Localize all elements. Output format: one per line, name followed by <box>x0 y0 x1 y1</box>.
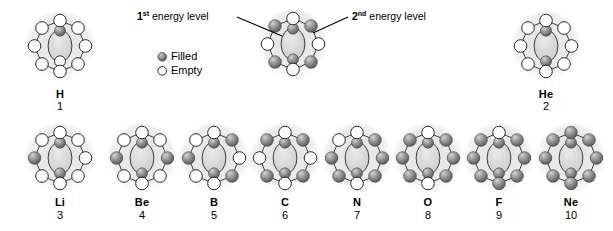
example-atom-carbon <box>255 6 331 82</box>
first-energy-level-callout: 1st energy level <box>137 10 209 22</box>
atom-fluorine-number: 9 <box>461 209 537 221</box>
atom-lithium <box>22 120 98 196</box>
atom-lithium-symbol: Li <box>22 196 98 208</box>
atom-carbon <box>247 120 323 196</box>
legend-label-filled: Filled <box>171 50 197 63</box>
atom-beryllium <box>104 120 180 196</box>
second-energy-level-callout: 2nd energy level <box>352 10 426 22</box>
atom-fluorine-symbol: F <box>461 196 537 208</box>
atom-neon-symbol: Ne <box>533 196 609 208</box>
callout-1-text: energy level <box>149 10 209 22</box>
filled-electron-icon <box>156 50 169 63</box>
atom-nitrogen <box>319 120 395 196</box>
atom-oxygen <box>390 120 466 196</box>
legend-item-filled: Filled <box>156 50 197 63</box>
atom-boron-symbol: B <box>176 196 252 208</box>
atom-neon-number: 10 <box>533 209 609 221</box>
atom-oxygen-number: 8 <box>390 209 466 221</box>
legend-item-empty: Empty <box>156 64 202 77</box>
atom-hydrogen-number: 1 <box>22 100 98 112</box>
atom-helium-symbol: He <box>508 88 584 100</box>
atom-boron <box>176 120 252 196</box>
legend-label-empty: Empty <box>171 64 202 77</box>
atom-beryllium-symbol: Be <box>104 196 180 208</box>
atom-beryllium-number: 4 <box>104 209 180 221</box>
atom-carbon-symbol: C <box>247 196 323 208</box>
atom-neon <box>533 120 609 196</box>
atom-helium-number: 2 <box>508 100 584 112</box>
atom-helium <box>508 8 584 84</box>
atom-nitrogen-number: 7 <box>319 209 395 221</box>
atom-oxygen-symbol: O <box>390 196 466 208</box>
atom-fluorine <box>461 120 537 196</box>
atom-carbon-number: 6 <box>247 209 323 221</box>
electron-shell-diagram: H 1 He 2 1st energy level 2nd energy lev… <box>0 0 613 231</box>
atom-hydrogen <box>22 8 98 84</box>
callout-2-text: energy level <box>366 10 426 22</box>
atom-nitrogen-symbol: N <box>319 196 395 208</box>
atom-boron-number: 5 <box>176 209 252 221</box>
atom-lithium-number: 3 <box>22 209 98 221</box>
atom-hydrogen-symbol: H <box>22 88 98 100</box>
empty-electron-icon <box>156 64 169 77</box>
